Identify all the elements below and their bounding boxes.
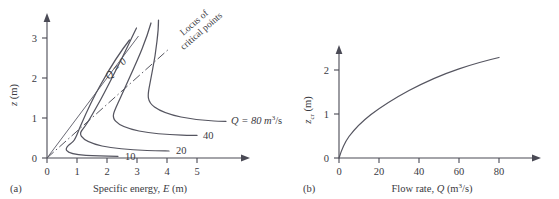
y-tick-label-0: 0: [32, 153, 37, 164]
x-tick-label-1: 1: [74, 166, 79, 177]
x-tick-label-4: 4: [164, 166, 170, 177]
figure-container: 0 1 2 3 4 5 0 1 2 3 z (m) Specif: [0, 0, 559, 199]
curve-label-q20: 20: [176, 145, 187, 156]
panel-b-y-tick-label-0: 0: [324, 153, 329, 164]
panel-b-y-axis-unit: (m): [302, 96, 314, 112]
x-tick-label-5: 5: [194, 166, 199, 177]
svg-text:z (m): z (m): [8, 84, 20, 107]
q80-prefix: Q = 80 m: [231, 115, 272, 126]
y-axis-arrowhead: [44, 13, 51, 22]
locus-of-critical-points-line: [47, 48, 170, 158]
panel-a-x-ticks: [47, 158, 197, 163]
curve-label-q80: Q = 80 m3/s: [231, 114, 282, 126]
panel-b-x-tick-label-1: 20: [374, 166, 385, 177]
panel-b-y-tick-label-2: 2: [324, 65, 329, 76]
q-zero-line: [47, 36, 139, 158]
panel-b-y-tick-label-1: 1: [324, 109, 329, 120]
y-tick-label-3: 3: [32, 33, 37, 44]
panel-b-x-tick-label-4: 80: [494, 166, 505, 177]
q-zero-label-text: Q = 0: [103, 55, 129, 81]
panel-b-x-tick-label-0: 0: [336, 166, 341, 177]
x-tick-label-3: 3: [134, 166, 139, 177]
panel-b-x-axis: [339, 155, 541, 162]
y-tick-label-1: 1: [32, 113, 37, 124]
panel-b-x-tick-label-2: 40: [414, 166, 425, 177]
curve-zcr-vs-q: [339, 58, 499, 159]
panel-b-x-axis-title-text: Flow rate,: [391, 183, 434, 194]
x-axis-arrowhead: [241, 155, 250, 162]
panel-b-y-axis: [336, 45, 343, 158]
y-axis-unit: (m): [8, 84, 20, 100]
x-tick-label-0: 0: [44, 166, 49, 177]
panel-b-y-axis-title: zcr (m): [302, 96, 316, 125]
panel-b-y-axis-arrowhead: [336, 45, 343, 54]
panel-a-y-tick-labels: 0 1 2 3: [32, 33, 37, 164]
locus-of-critical-points-label: Locus of critical points: [171, 2, 224, 52]
panel-b-y-ticks: [334, 70, 339, 158]
panel-a-x-axis-title: Specific energy, E (m): [93, 183, 188, 195]
panel-a: 0 1 2 3 4 5 0 1 2 3 z (m) Specif: [8, 2, 282, 195]
panel-b-x-tick-labels: 0 20 40 60 80: [336, 166, 504, 177]
svg-text:zcr (m): zcr (m): [302, 96, 316, 125]
panel-a-y-axis-title: z (m): [8, 84, 20, 107]
panel-b-x-axis-unit-close: /s): [462, 183, 473, 195]
panel-a-y-ticks: [42, 38, 47, 158]
panel-b-tag: (b): [303, 183, 316, 195]
x-tick-label-2: 2: [104, 166, 109, 177]
panel-b-y-tick-labels: 0 1 2: [324, 65, 329, 164]
panel-b-x-axis-title: Flow rate, Q (m3/s): [391, 182, 473, 195]
q80-suffix: /s: [275, 115, 282, 126]
panel-a-tag: (a): [10, 183, 22, 195]
curve-label-q10: 10: [125, 151, 136, 162]
panel-b-x-axis-arrowhead: [532, 155, 541, 162]
q-zero-label: Q = 0: [103, 55, 129, 81]
panel-b: 0 20 40 60 80 0 1 2 zcr (m) Flow rate, Q…: [302, 45, 541, 195]
panel-b-x-ticks: [339, 158, 499, 163]
figure-svg: 0 1 2 3 4 5 0 1 2 3 z (m) Specif: [0, 0, 559, 199]
panel-a-y-axis: [44, 13, 51, 158]
panel-b-x-axis-unit-open: (m: [447, 183, 459, 195]
curve-label-q40: 40: [203, 130, 214, 141]
panel-a-x-tick-labels: 0 1 2 3 4 5: [44, 166, 199, 177]
y-tick-label-2: 2: [32, 73, 37, 84]
x-axis-title-text: Specific energy,: [93, 183, 160, 194]
svg-text:Q = 0: Q = 0: [103, 55, 129, 81]
x-axis-unit: (m): [172, 183, 188, 195]
panel-b-x-tick-label-3: 60: [454, 166, 465, 177]
